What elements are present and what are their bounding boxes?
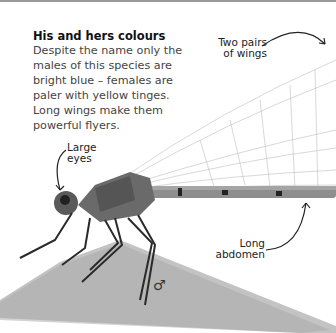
label-long-abdomen: Long abdomen <box>207 238 265 260</box>
info-body: Despite the name only the males of this … <box>33 43 183 133</box>
label-large-eyes: Large eyes <box>67 142 105 164</box>
info-title: His and hers colours <box>33 29 183 43</box>
label-two-pairs-of-wings: Two pairs of wings <box>207 37 267 59</box>
male-symbol-icon: ♂ <box>153 277 166 293</box>
info-box: His and hers colours Despite the name on… <box>33 29 183 133</box>
